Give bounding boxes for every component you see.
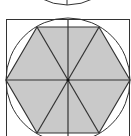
top-partial-figure bbox=[40, 0, 95, 5]
center-point bbox=[66, 78, 69, 81]
hexagon-diagram bbox=[0, 0, 131, 136]
